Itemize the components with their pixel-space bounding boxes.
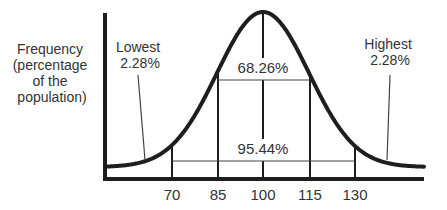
x-tick-label: 130 (342, 186, 367, 203)
bell-curve-diagram: Frequency (percentage of the population)… (0, 0, 447, 210)
lowest-label: Lowest 2.28% (116, 39, 164, 71)
center-percentage-label: 68.26% (238, 59, 289, 76)
lowest-leader-line (138, 75, 145, 160)
highest-label: Highest 2.28% (364, 36, 415, 68)
x-tick-label: 115 (298, 186, 322, 203)
x-tick-label: 85 (210, 186, 227, 203)
y-axis-label: Frequency (percentage of the population) (13, 41, 92, 105)
x-tick-label: 100 (250, 186, 275, 203)
highest-leader-line (387, 75, 390, 160)
x-tick-label: 70 (164, 186, 181, 203)
wide-percentage-label: 95.44% (238, 140, 289, 157)
